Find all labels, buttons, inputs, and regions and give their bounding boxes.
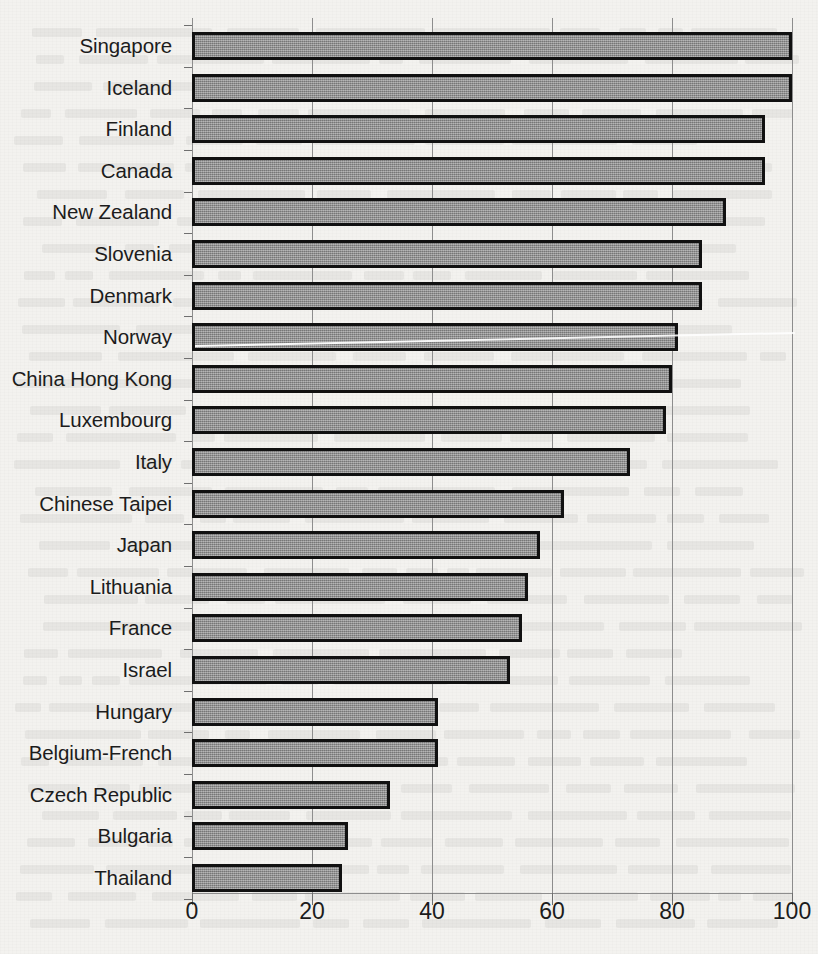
bar — [192, 115, 765, 143]
y-axis-tick — [184, 691, 192, 692]
y-axis-tick — [184, 108, 192, 109]
y-axis-tick — [184, 774, 192, 775]
y-axis-category-label: New Zealand — [52, 198, 172, 226]
bar — [192, 698, 438, 726]
y-axis-category-label: Czech Republic — [30, 781, 172, 809]
y-axis-category-label: Singapore — [79, 32, 172, 60]
x-axis-tick-label: 20 — [299, 898, 325, 925]
y-axis-category-label: Belgium-French — [29, 739, 172, 767]
y-axis-tick — [184, 608, 192, 609]
bar — [192, 614, 522, 642]
bar — [192, 490, 564, 518]
y-axis-category-label: Italy — [135, 448, 172, 476]
y-axis-tick — [184, 192, 192, 193]
bleed-through-text-line — [105, 919, 188, 928]
y-axis-category-label: Bulgaria — [98, 822, 172, 850]
y-axis-category-label: Denmark — [90, 282, 172, 310]
y-axis-category-label: Thailand — [94, 864, 172, 892]
x-axis-tick-label: 60 — [539, 898, 565, 925]
plot-area — [192, 18, 792, 893]
bleed-through-text-line — [363, 919, 409, 928]
bar — [192, 739, 438, 767]
y-axis-category-label: Canada — [101, 157, 172, 185]
bar — [192, 365, 672, 393]
bar — [192, 573, 528, 601]
bar — [192, 157, 765, 185]
bar — [192, 323, 678, 351]
bleed-through-text-line — [707, 919, 777, 928]
y-axis-category-label: Finland — [105, 115, 172, 143]
y-axis-category-label: Hungary — [95, 698, 172, 726]
x-axis-line — [192, 893, 792, 894]
y-axis-tick — [184, 649, 192, 650]
y-axis-tick — [184, 524, 192, 525]
y-axis-tick — [184, 400, 192, 401]
x-axis-tick-label: 100 — [773, 898, 811, 925]
gridline — [672, 18, 673, 893]
y-axis-tick — [184, 441, 192, 442]
y-axis-category-label: Slovenia — [94, 240, 172, 268]
y-axis-tick — [184, 358, 192, 359]
y-axis-tick — [184, 483, 192, 484]
y-axis-tick — [184, 25, 192, 26]
bar — [192, 864, 342, 892]
y-axis-tick — [184, 566, 192, 567]
y-axis-category-label: Israel — [122, 656, 172, 684]
bar — [192, 448, 630, 476]
bar — [192, 240, 702, 268]
y-axis-category-label: China Hong Kong — [12, 365, 172, 393]
y-axis-category-label: Luxembourg — [59, 406, 172, 434]
bleed-through-text-line — [16, 892, 52, 901]
bar-chart: SingaporeIcelandFinlandCanadaNew Zealand… — [0, 0, 818, 954]
bar — [192, 822, 348, 850]
gridline — [792, 18, 793, 893]
bar — [192, 406, 666, 434]
bar — [192, 198, 726, 226]
y-axis-tick — [184, 233, 192, 234]
x-axis-tick-label: 80 — [659, 898, 685, 925]
y-axis-tick — [184, 732, 192, 733]
y-axis-category-label: Iceland — [107, 74, 172, 102]
y-axis-category-label: Lithuania — [90, 573, 172, 601]
bleed-through-text-line — [200, 919, 300, 928]
y-axis-labels: SingaporeIcelandFinlandCanadaNew Zealand… — [0, 18, 182, 893]
bar — [192, 32, 792, 60]
y-axis-tick — [184, 816, 192, 817]
bar — [192, 282, 702, 310]
bar — [192, 531, 540, 559]
y-axis-tick — [184, 67, 192, 68]
y-axis-tick — [184, 857, 192, 858]
y-axis-category-label: Japan — [117, 531, 172, 559]
y-axis-category-label: Norway — [103, 323, 172, 351]
bar — [192, 656, 510, 684]
y-axis-tick — [184, 150, 192, 151]
y-axis-tick — [184, 316, 192, 317]
x-axis-tick-label: 40 — [419, 898, 445, 925]
y-axis-tick — [184, 275, 192, 276]
bleed-through-text-line — [30, 919, 90, 928]
bleed-through-text-line — [68, 892, 136, 901]
x-axis-tick-label: 0 — [186, 898, 199, 925]
y-axis-category-label: Chinese Taipei — [39, 490, 172, 518]
bar — [192, 74, 792, 102]
y-axis-category-label: France — [109, 614, 172, 642]
bar — [192, 781, 390, 809]
